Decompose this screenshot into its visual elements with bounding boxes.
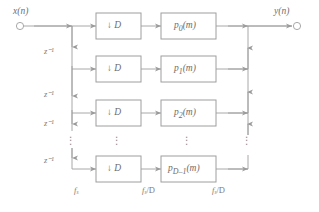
rate-label-mid: fs/D [142, 186, 155, 195]
diagram-wires [0, 0, 319, 212]
rate-sub-0: s [76, 189, 78, 195]
rate-label-input: fs [74, 186, 78, 195]
filter-label-row-0: p0(m) [174, 21, 196, 33]
polyphase-decimator-diagram: x(n) y(n) z⁻¹ z⁻¹ z⁻¹ z⁻¹ ↓ D ↓ D ↓ D ↓ … [0, 0, 319, 212]
ellipsis-decimator-column: ... [115, 133, 118, 143]
rate-label-output: fs/D [212, 186, 225, 195]
delay-label-4: z⁻¹ [44, 156, 54, 165]
ellipsis-filter-column: ... [185, 133, 188, 143]
filter-label-row-2: p2(m) [174, 108, 196, 120]
delay-label-1: z⁻¹ [44, 47, 54, 56]
decimator-label-row-1: ↓ D [107, 64, 121, 74]
filter-sub-3: D–1 [173, 167, 187, 176]
output-port-label: y(n) [274, 7, 289, 17]
ellipsis-delay-bus: ... [69, 133, 72, 143]
ellipsis-sum-bus: ... [245, 133, 248, 143]
delay-label-3: z⁻¹ [44, 119, 54, 128]
filter-label-row-1: p1(m) [174, 64, 196, 76]
decimator-label-row-0: ↓ D [107, 21, 121, 31]
decimator-label-row-3: ↓ D [107, 164, 121, 174]
rate-suffix-1: /D [146, 185, 155, 195]
decimator-label-row-2: ↓ D [107, 108, 121, 118]
filter-arg-2: (m) [183, 107, 196, 117]
rate-suffix-2: /D [216, 185, 225, 195]
filter-label-row-3: pD–1(m) [168, 164, 200, 176]
filter-arg-1: (m) [183, 63, 196, 73]
filter-arg-3: (m) [186, 163, 199, 173]
filter-arg-0: (m) [183, 20, 196, 30]
input-port-label: x(n) [13, 7, 28, 17]
delay-label-2: z⁻¹ [44, 90, 54, 99]
